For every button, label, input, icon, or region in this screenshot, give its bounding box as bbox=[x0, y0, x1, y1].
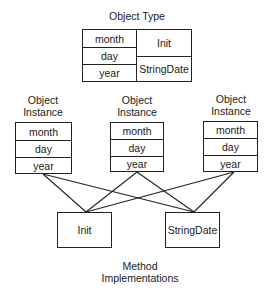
object-type-methods: Init StringDate bbox=[137, 30, 191, 81]
instance-2-day: day bbox=[111, 139, 163, 156]
line-instance2-stringdate bbox=[137, 172, 194, 212]
instance-2-box: month day year bbox=[110, 122, 164, 172]
instance-2-title: Object Instance bbox=[102, 94, 172, 118]
instance-1-title-line2: Instance bbox=[8, 106, 78, 118]
instance-3-title-line2: Instance bbox=[196, 105, 266, 117]
method-impl-stringdate: StringDate bbox=[165, 212, 220, 248]
instance-1-year: year bbox=[16, 157, 71, 173]
object-type-title: Object Type bbox=[84, 10, 190, 22]
field-day: day bbox=[83, 47, 136, 64]
instance-1-box: month day year bbox=[15, 122, 72, 174]
methods-caption-line2: Implementations bbox=[84, 272, 196, 284]
instance-1-month: month bbox=[16, 123, 71, 140]
object-type-box: month day year Init StringDate bbox=[82, 29, 192, 82]
field-year: year bbox=[83, 64, 136, 81]
methods-caption-line1: Method bbox=[84, 260, 196, 272]
object-type-fields: month day year bbox=[83, 30, 137, 81]
line-instance3-stringdate bbox=[194, 172, 234, 212]
instance-2-year: year bbox=[111, 156, 163, 171]
method-stringdate: StringDate bbox=[137, 56, 191, 81]
method-init: Init bbox=[137, 30, 191, 56]
line-instance2-init bbox=[86, 172, 137, 212]
instance-1-title: Object Instance bbox=[8, 94, 78, 118]
instance-1-day: day bbox=[16, 140, 71, 157]
instance-3-title-line1: Object bbox=[196, 93, 266, 105]
instance-3-box: month day year bbox=[203, 121, 258, 172]
instance-2-title-line1: Object bbox=[102, 94, 172, 106]
line-instance3-init bbox=[86, 172, 234, 212]
methods-caption: Method Implementations bbox=[84, 260, 196, 284]
instance-2-month: month bbox=[111, 123, 163, 139]
line-instance1-stringdate bbox=[43, 174, 194, 212]
method-impl-init: Init bbox=[57, 212, 112, 248]
instance-2-title-line2: Instance bbox=[102, 106, 172, 118]
instance-3-month: month bbox=[204, 122, 257, 138]
instance-3-day: day bbox=[204, 138, 257, 155]
field-month: month bbox=[83, 30, 136, 47]
instance-3-year: year bbox=[204, 155, 257, 171]
instance-1-title-line1: Object bbox=[8, 94, 78, 106]
instance-3-title: Object Instance bbox=[196, 93, 266, 117]
